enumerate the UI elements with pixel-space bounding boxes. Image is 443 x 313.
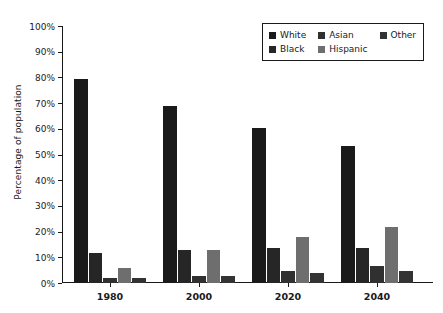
y-tick-mark [58,103,62,104]
bar[interactable] [267,248,281,283]
bar[interactable] [370,266,384,283]
x-tick-mark [288,283,289,287]
y-tick-mark [58,52,62,53]
bar[interactable] [385,227,399,283]
x-tick-label: 2000 [186,291,212,302]
bar[interactable] [163,106,177,283]
legend-swatch-icon [269,46,276,53]
legend-swatch-cell [317,28,329,42]
y-tick: 90% [62,52,63,53]
bar[interactable] [118,268,132,283]
legend-item-white[interactable]: White [280,28,317,42]
y-axis-title-text: Percentage of population [13,84,23,199]
bar[interactable] [281,271,295,283]
y-tick: 20% [62,232,63,233]
legend-swatch-cell [317,42,329,56]
y-tick-label: 100% [29,22,55,32]
y-tick: 70% [62,103,63,104]
y-tick-mark [58,232,62,233]
y-tick-label: 10% [35,253,55,263]
y-tick-label: 20% [35,227,55,237]
y-tick-mark [58,77,62,78]
legend-swatch-icon [269,32,276,39]
y-tick: 60% [62,129,63,130]
legend-swatch-cell [379,42,391,56]
x-tick-mark [377,283,378,287]
y-tick-label: 30% [35,201,55,211]
bar[interactable] [74,79,88,283]
y-tick-mark [58,155,62,156]
y-tick-label: 80% [35,73,55,83]
y-tick: 80% [62,77,63,78]
y-tick: 10% [62,257,63,258]
legend-swatch-icon [380,32,387,39]
y-tick-label: 90% [35,47,55,57]
y-tick: 100% [62,26,63,27]
bar[interactable] [310,273,324,283]
legend-table: WhiteAsianOtherBlackHispanic [268,28,417,56]
y-tick: 0% [62,283,63,284]
bar[interactable] [356,248,370,283]
bar[interactable] [132,278,146,283]
bar[interactable] [341,146,355,283]
legend-item-other[interactable]: Other [391,28,418,42]
legend-swatch-cell [268,42,280,56]
legend-item-asian[interactable]: Asian [329,28,378,42]
legend-swatch-icon [318,32,325,39]
bar-chart-figure: Percentage of population 0%10%20%30%40%5… [0,0,443,313]
bar[interactable] [221,276,235,283]
bar[interactable] [192,276,206,283]
y-tick: 50% [62,155,63,156]
y-axis-title: Percentage of population [10,0,26,283]
y-tick-mark [58,283,62,284]
bar[interactable] [103,278,117,283]
bar[interactable] [89,253,103,283]
bar[interactable] [178,250,192,283]
x-tick-label: 2040 [364,291,390,302]
bar[interactable] [207,250,221,283]
bar[interactable] [252,128,266,283]
x-tick-label: 1980 [97,291,123,302]
y-tick-mark [58,257,62,258]
y-tick: 40% [62,180,63,181]
y-tick-mark [58,206,62,207]
legend-row: BlackHispanic [268,42,417,56]
legend-item-black[interactable]: Black [280,42,317,56]
y-tick-label: 50% [35,150,55,160]
bar[interactable] [399,271,413,283]
y-tick-label: 70% [35,99,55,109]
chart-legend[interactable]: WhiteAsianOtherBlackHispanic [262,23,424,61]
legend-swatch-cell [268,28,280,42]
x-tick-mark [110,283,111,287]
legend-swatch-cell [379,28,391,42]
legend-row: WhiteAsianOther [268,28,417,42]
y-tick-label: 60% [35,124,55,134]
x-tick-mark [199,283,200,287]
x-tick-label: 2020 [275,291,301,302]
y-tick: 30% [62,206,63,207]
legend-item-empty [391,42,418,56]
y-tick-mark [58,180,62,181]
y-tick-label: 40% [35,176,55,186]
legend-item-hispanic[interactable]: Hispanic [329,42,378,56]
plot-area: 0%10%20%30%40%50%60%70%80%90%100% 198020… [62,26,433,283]
y-tick-mark [58,129,62,130]
legend-swatch-icon [318,46,325,53]
y-tick-label: 0% [41,279,55,289]
bar[interactable] [296,237,310,283]
y-tick-mark [58,26,62,27]
